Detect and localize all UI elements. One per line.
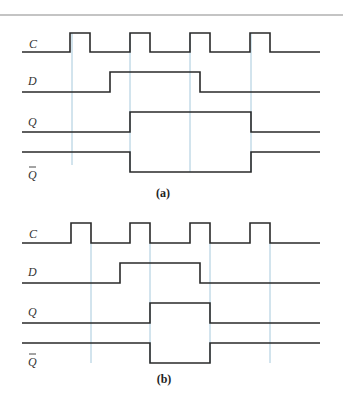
waveform-c (22, 223, 320, 243)
waveform-d (22, 72, 320, 92)
panel-a: C D Q Q (a) (22, 33, 320, 200)
waveform-qbar (22, 152, 320, 172)
signal-label-d: D (27, 265, 37, 279)
signal-label-q: Q (28, 115, 37, 129)
waveform-qbar (22, 343, 320, 363)
panel-b: C D Q Q (b) (22, 223, 320, 386)
signal-label-qbar: Q (28, 168, 37, 182)
waveform-q (22, 112, 320, 132)
signal-label-qbar: Q (28, 355, 37, 369)
waveform-c (22, 33, 320, 52)
signal-label-d: D (27, 74, 37, 88)
waveform-d (22, 263, 320, 283)
caption-b: (b) (157, 372, 172, 386)
signal-label-c: C (29, 227, 38, 241)
waveform-q (22, 303, 320, 323)
signal-label-q: Q (28, 305, 37, 319)
timing-diagram: C D Q Q (a) C D Q Q (b) (0, 0, 343, 406)
signal-label-c: C (29, 37, 38, 51)
caption-a: (a) (156, 186, 170, 200)
